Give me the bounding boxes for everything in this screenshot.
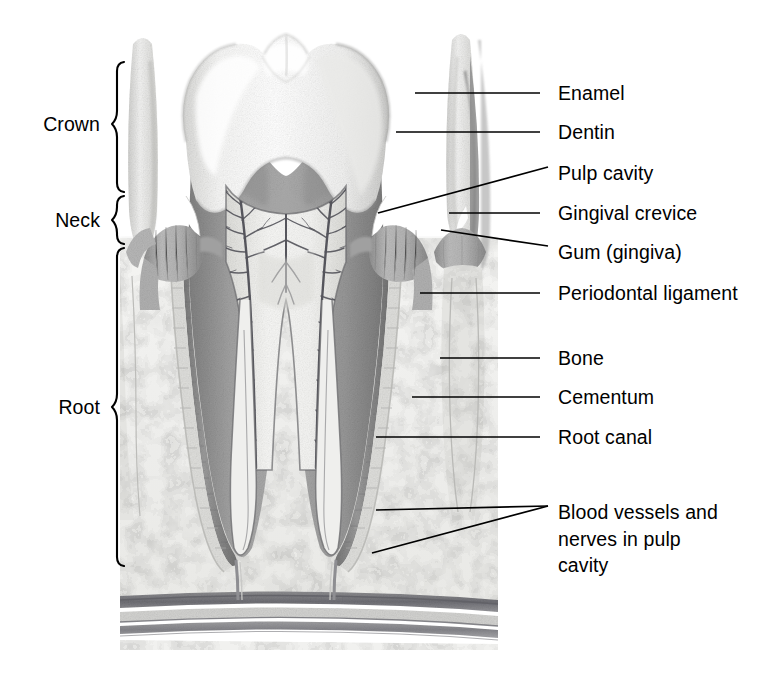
callout-label-bone: Bone bbox=[558, 345, 604, 372]
bracket-neck bbox=[112, 196, 124, 244]
callout-label-dentin: Dentin bbox=[558, 119, 615, 146]
callout-label-gingival-crevice: Gingival crevice bbox=[558, 200, 697, 227]
callout-label-periodontal-ligament: Periodontal ligament bbox=[558, 280, 738, 307]
callout-label-blood-vessels-nerves: Blood vessels and nerves in pulp cavity bbox=[558, 499, 718, 579]
section-label-neck: Neck bbox=[8, 207, 100, 234]
callout-label-enamel: Enamel bbox=[558, 80, 625, 107]
callout-label-cementum: Cementum bbox=[558, 384, 654, 411]
callout-label-pulp-cavity: Pulp cavity bbox=[558, 160, 653, 187]
callout-label-root-canal: Root canal bbox=[558, 424, 652, 451]
section-label-root: Root bbox=[8, 394, 100, 421]
tooth-anatomy-figure: CrownNeckRoot EnamelDentinPulp cavityGin… bbox=[0, 0, 780, 674]
neighbor-tooth-left bbox=[128, 38, 158, 258]
bracket-crown bbox=[112, 62, 124, 192]
section-label-crown: Crown bbox=[8, 111, 100, 138]
callout-label-gum-gingiva: Gum (gingiva) bbox=[558, 239, 682, 266]
